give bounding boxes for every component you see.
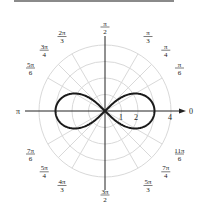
angle-numerator: π [178,61,182,69]
angle-numerator: π [146,29,150,37]
angle-denominator: 2 [103,28,107,36]
radial-tick-label: 2 [134,113,138,122]
angle-denominator: 6 [178,69,182,77]
radial-tick-label: 4 [168,113,172,122]
arrow-icon [179,109,186,114]
angle-numerator: 5π [41,164,49,172]
radial-tick-label: 1 [119,113,123,122]
angle-label: 5π6 [26,61,35,77]
angle-label: π [16,107,20,116]
angle-label: 7π6 [26,147,35,163]
angle-label: π3 [144,29,153,45]
polar-plot: 1240π6π4π3π22π33π45π6π7π65π44π33π25π37π4… [0,0,205,224]
angle-denominator: 3 [146,186,150,194]
angle-label: 4π3 [58,178,67,194]
angle-label: 5π4 [40,164,49,180]
angle-denominator: 4 [42,51,46,59]
angle-numerator: 7π [27,147,35,155]
angle-numerator: 7π [162,164,170,172]
angle-numerator: 2π [58,29,66,37]
angle-numerator: 3π [41,43,49,51]
angle-denominator: 4 [164,172,168,180]
angle-numerator: 5π [27,61,35,69]
angle-label: 7π4 [161,164,170,180]
angle-denominator: 4 [164,51,168,59]
angle-label: 11π6 [174,147,185,163]
angle-numerator: π [103,20,107,28]
angle-numerator: 3π [101,188,109,196]
angle-denominator: 6 [178,155,182,163]
angle-denominator: 6 [29,69,33,77]
angle-label: 3π4 [40,43,49,59]
angle-numerator: 5π [144,178,152,186]
angle-label: 5π3 [144,178,153,194]
angle-denominator: 6 [29,155,33,163]
angle-denominator: 3 [60,37,64,45]
angle-numerator: π [164,43,168,51]
angle-denominator: 3 [146,37,150,45]
angle-label: 2π3 [58,29,67,45]
angle-denominator: 3 [60,186,64,194]
angle-label: 3π2 [101,188,110,204]
angle-numerator: 4π [58,178,66,186]
angle-label: π4 [161,43,170,59]
angle-label: π6 [175,61,184,77]
angle-denominator: 2 [103,196,107,204]
angle-label: π2 [101,20,110,36]
angle-denominator: 4 [42,172,46,180]
angle-label: 0 [189,107,193,116]
angle-numerator: 11π [174,147,185,155]
